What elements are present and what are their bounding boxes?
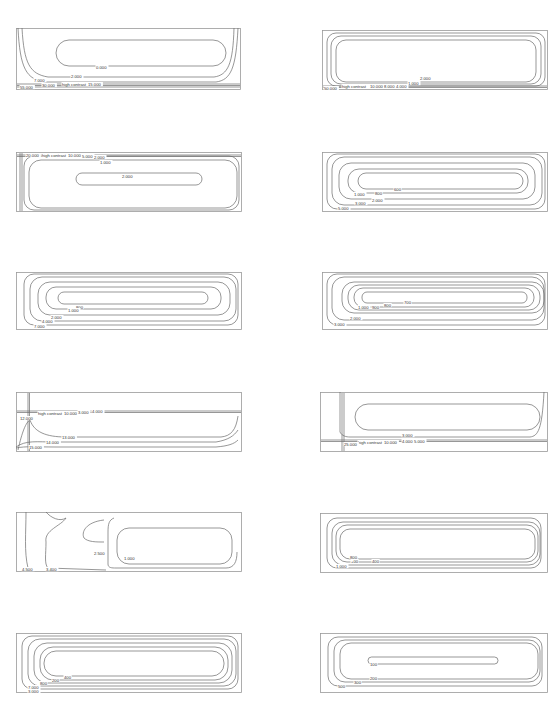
contour-label: +00 — [351, 559, 359, 564]
contour-line — [362, 292, 527, 303]
contour-plot: 3.0004.0005.000high contrast10.00025.000 — [320, 392, 548, 452]
contour-plot: 800400+001.000 — [320, 513, 548, 573]
contour-panel-8: 3.0004.0005.000high contrast10.00025.000 — [320, 392, 548, 452]
contour-label: 25.000 — [344, 442, 357, 447]
plot-frame — [323, 273, 548, 330]
plot-frame — [17, 634, 242, 693]
contour-line — [336, 525, 538, 562]
contour-line — [354, 288, 534, 307]
contour-panel-7: high contrast10.0003.0004.00012.00013.00… — [16, 392, 242, 452]
contour-label: 4.000 — [402, 439, 413, 444]
contour-label: 14.000 — [46, 440, 59, 445]
contour-label: 2.000 — [350, 316, 361, 321]
contour-label: high contrast — [358, 440, 383, 445]
contour-label: 400 — [372, 559, 380, 564]
contour-panel-2: 2.0001.000high contrast10.0008.0004.0005… — [322, 30, 548, 90]
contour-plot: 100200300500 — [320, 633, 548, 693]
contour-panel-5: 8001.0002.0004.0007.000 — [16, 272, 242, 330]
contour-label: 7.000 — [34, 324, 45, 329]
contour-line — [22, 28, 234, 77]
contour-panel-9: 2.5001.0004.5003.400 — [16, 512, 242, 572]
contour-line — [83, 520, 104, 542]
contour-line — [339, 163, 535, 199]
contour-line — [332, 157, 542, 205]
contour-line — [18, 28, 238, 82]
contour-panel-10: 800400+001.000 — [320, 513, 548, 573]
contour-label: 4.000 — [92, 409, 103, 414]
contour-panel-4: 6008001.0002.0003.0005.000 — [322, 152, 548, 212]
contour-label: 1.000 — [408, 81, 419, 86]
contour-label: 1.000 — [358, 305, 369, 310]
plot-frame — [17, 153, 242, 212]
contour-label: 12.000 — [20, 416, 33, 421]
contour-label: 3.000 — [78, 410, 89, 415]
contour-plot: 4002008007.0003.000 — [16, 633, 242, 693]
contour-panel-3: 20.000high contrast10.0005.0002.0001.000… — [16, 152, 242, 212]
contour-label: 1.000 — [336, 564, 347, 569]
contour-label: 900 — [372, 305, 380, 310]
contour-label: 15.000 — [29, 445, 42, 450]
contour-label: 20.000 — [26, 153, 39, 158]
contour-line — [358, 173, 523, 189]
contour-line — [368, 657, 498, 664]
contour-label: 3.000 — [402, 433, 413, 438]
contour-label: 4.000 — [396, 84, 407, 89]
contour-line — [108, 518, 237, 568]
contour-label: 2.000 — [51, 315, 62, 320]
contour-label: 800 — [40, 681, 48, 686]
contour-panel-11: 4002008007.0003.000 — [16, 633, 242, 693]
contour-label: 13.000 — [62, 435, 75, 440]
contour-label: 10.000 — [384, 440, 397, 445]
contour-label: 10.000 — [68, 153, 81, 158]
contour-label: 10.000 — [64, 411, 77, 416]
contour-plot: 8001.0002.0004.0007.000 — [16, 272, 242, 330]
contour-label: 50.000 — [324, 86, 337, 91]
contour-panel-12: 100200300500 — [320, 633, 548, 693]
contour-label: 1.000 — [124, 556, 135, 561]
contour-label: 1.000 — [68, 308, 79, 313]
contour-plot: 20.000high contrast10.0005.0002.0001.000… — [16, 152, 242, 212]
contour-line — [327, 33, 545, 86]
contour-label: 30.000 — [42, 83, 55, 88]
contour-label: 15.000 — [88, 82, 101, 87]
contour-plot: high contrast10.0003.0004.00012.00013.00… — [16, 392, 242, 452]
contour-label: 8.000 — [384, 84, 395, 89]
contour-line — [327, 518, 541, 568]
contour-label: 2.000 — [122, 174, 133, 179]
contour-panel-1: 0.0002.0007.00030.000high contrast15.000… — [16, 28, 241, 90]
contour-label: 400 — [64, 675, 72, 680]
contour-plot: 2.0001.000high contrast10.0008.0004.0005… — [322, 30, 548, 90]
plot-frame — [323, 31, 548, 90]
contour-panel-6: 7008009001.0002.0003.000 — [322, 272, 548, 330]
contour-line — [355, 404, 540, 430]
contour-plot: 2.5001.0004.5003.400 — [16, 512, 242, 572]
contour-label: 300 — [354, 680, 362, 685]
contour-line — [46, 512, 107, 570]
contour-plot: 7008009001.0002.0003.000 — [322, 272, 548, 330]
contour-line — [46, 287, 221, 309]
contour-label: 600 — [394, 187, 402, 192]
plot-frame — [17, 29, 241, 90]
contour-plot: 0.0002.0007.00030.000high contrast15.000… — [16, 28, 241, 90]
contour-line — [332, 522, 540, 565]
contour-label: 55.000 — [20, 85, 33, 90]
contour-line — [336, 40, 536, 82]
contour-label: 800 — [375, 191, 383, 196]
contour-label: 200 — [370, 676, 378, 681]
contour-label: high contrast — [62, 82, 87, 87]
contour-line — [58, 292, 208, 304]
contour-label: 500 — [338, 684, 346, 689]
contour-label: 800 — [384, 303, 392, 308]
contour-label: 100 — [370, 662, 378, 667]
contour-label: 5.000 — [338, 206, 349, 211]
contour-line — [348, 169, 528, 193]
contour-label: high contrast — [342, 84, 367, 89]
contour-label: high contrast — [38, 411, 63, 416]
contour-line — [26, 512, 29, 568]
contour-label: 200 — [52, 678, 60, 683]
contour-label: 700 — [404, 300, 412, 305]
contour-label: 10.000 — [370, 84, 383, 89]
contour-line — [56, 40, 226, 66]
contour-label: 4.500 — [22, 567, 33, 572]
contour-label: 3.000 — [355, 201, 366, 206]
